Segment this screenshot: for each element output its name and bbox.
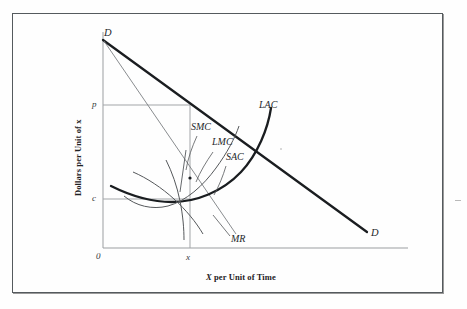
scan-speck xyxy=(280,148,282,150)
long-run-marginal-cost-label: LMC xyxy=(212,137,233,147)
figure-canvas: Dollars per Unit of x X per Unit of Time… xyxy=(0,0,467,309)
scan-mark xyxy=(455,200,461,201)
y-tick-cost: c xyxy=(92,193,96,203)
y-tick-price: p xyxy=(92,99,97,109)
origin-label: 0 xyxy=(96,251,101,261)
demand-end-label: D xyxy=(371,228,379,239)
demand-top-label: D xyxy=(104,28,112,39)
y-axis-title: Dollars per Unit of x xyxy=(73,119,83,196)
short-run-marginal-cost-label: SMC xyxy=(191,122,211,132)
lmc-leader-line xyxy=(196,152,213,182)
marginal-revenue-label: MR xyxy=(231,234,245,244)
equilibrium-intersection-node xyxy=(188,176,191,179)
x-tick-quantity: x xyxy=(186,252,190,262)
long-run-average-cost-label: LAC xyxy=(259,100,277,110)
smc-leader-line xyxy=(186,136,197,170)
short-run-average-cost-label: SAC xyxy=(226,152,244,162)
x-axis-title-text: per Unit of Time xyxy=(212,272,276,282)
mr-leader-line xyxy=(213,215,230,236)
x-axis-title: X per Unit of Time xyxy=(206,272,276,282)
